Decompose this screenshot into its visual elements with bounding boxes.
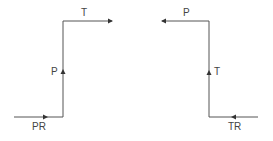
arrow-left-icon bbox=[231, 115, 236, 120]
label-p-left: P bbox=[51, 67, 58, 77]
label-t-right: T bbox=[214, 67, 220, 77]
arrow-up-icon bbox=[61, 69, 66, 74]
label-tr: TR bbox=[228, 122, 241, 132]
label-pr: PR bbox=[32, 122, 46, 132]
arrow-left-icon bbox=[161, 19, 166, 24]
path-lines bbox=[0, 0, 273, 141]
right-path-line bbox=[162, 21, 258, 117]
arrow-right-icon bbox=[43, 115, 48, 120]
diagram-canvas: PR P T TR T P bbox=[0, 0, 273, 141]
label-p-right: P bbox=[183, 8, 190, 18]
label-t-left: T bbox=[81, 8, 87, 18]
arrow-right-icon bbox=[108, 19, 113, 24]
arrow-up-icon bbox=[207, 70, 212, 75]
